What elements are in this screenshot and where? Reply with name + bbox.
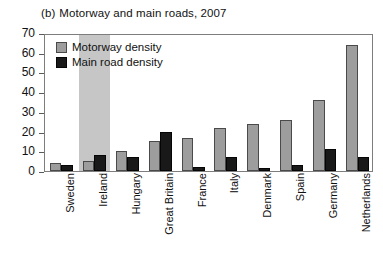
y-axis-tick-label: 20 [22, 125, 35, 139]
bar [182, 138, 194, 172]
bar [226, 157, 238, 171]
bar [94, 155, 106, 171]
bar [325, 149, 337, 171]
bar-group [280, 35, 303, 171]
bar [50, 163, 62, 171]
bar [214, 128, 226, 171]
y-axis-tick-label: 50 [22, 65, 35, 79]
y-axis-tick-label: 60 [22, 46, 35, 60]
x-axis-label: Hungary [131, 173, 142, 255]
bar [292, 165, 304, 171]
bar [247, 124, 259, 171]
x-axis-label: Spain [295, 173, 306, 255]
legend-swatch [56, 57, 67, 68]
x-axis-label: Denmark [262, 173, 273, 255]
bar-group [182, 35, 205, 171]
chart-legend: Motorway densityMain road density [56, 40, 163, 69]
x-axis-label: Netherlands [361, 173, 372, 255]
y-axis-tick-label: 70 [22, 26, 35, 40]
bar [358, 157, 370, 171]
bar [83, 161, 95, 171]
bar [149, 141, 161, 171]
chart-title-index: (b) [41, 7, 55, 19]
x-axis-label: Germany [328, 173, 339, 255]
bar [313, 100, 325, 171]
legend-swatch [56, 42, 67, 53]
legend-label: Motorway density [72, 41, 161, 53]
chart-title-text: Motorway and main roads, 2007 [59, 7, 226, 19]
x-axis-label: Great Britain [164, 173, 175, 255]
x-axis-labels: SwedenIrelandHungaryGreat BritainFranceI… [44, 173, 373, 255]
legend-item: Motorway density [56, 40, 163, 54]
y-axis-tick-label: 40 [22, 85, 35, 99]
bar-group [214, 35, 237, 171]
legend-item: Main road density [56, 55, 163, 69]
bar [160, 132, 172, 171]
bar [259, 168, 271, 171]
bar-group [313, 35, 336, 171]
chart-title: (b)Motorway and main roads, 2007 [41, 7, 227, 19]
x-axis-label: Ireland [98, 173, 109, 255]
bar [61, 165, 73, 171]
y-axis: 010203040506070 [0, 34, 44, 172]
chart-figure: (b)Motorway and main roads, 2007 0102030… [0, 0, 383, 255]
bar [116, 151, 128, 171]
bar [280, 120, 292, 171]
bar-group [346, 35, 369, 171]
bar [193, 167, 205, 171]
bar [346, 45, 358, 171]
y-axis-tick-label: 30 [22, 105, 35, 119]
y-axis-tick-label: 10 [22, 144, 35, 158]
x-axis-label: Sweden [65, 173, 76, 255]
legend-label: Main road density [72, 56, 163, 68]
x-axis-label: France [197, 173, 208, 255]
y-axis-tick-label: 0 [28, 164, 35, 178]
x-axis-label: Italy [229, 173, 240, 255]
bar-group [247, 35, 270, 171]
bar [127, 157, 139, 171]
